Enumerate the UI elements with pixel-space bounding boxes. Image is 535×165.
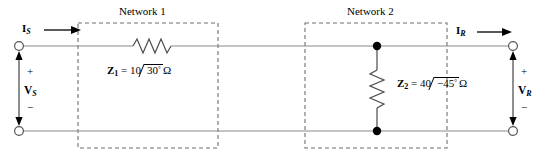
- receiving-voltage-arrowhead-down: [509, 117, 516, 126]
- z2-subscript: 2: [404, 82, 408, 91]
- terminal-receiving-bottom: [509, 127, 518, 136]
- source-voltage-arrowhead-down: [15, 117, 22, 126]
- receiving-voltage-subscript: R: [526, 89, 531, 98]
- z1-angle-symbol: 30°: [141, 65, 163, 76]
- z1-impedance-label: Z1 = 1030°Ω: [107, 65, 171, 78]
- z1-equals: =: [121, 64, 127, 76]
- terminal-source-bottom: [15, 127, 24, 136]
- receiving-voltage-arrowhead-up: [509, 51, 516, 60]
- z2-equals: =: [411, 77, 417, 89]
- receiving-current-label: IR: [456, 25, 466, 38]
- z2-unit: Ω: [459, 77, 467, 89]
- z1-resistor-symbol: [133, 39, 171, 53]
- z1-unit: Ω: [163, 64, 171, 76]
- source-current-arrowhead: [71, 26, 81, 34]
- receiving-current-arrowhead: [502, 28, 512, 36]
- junction-top-dot: [373, 42, 381, 50]
- junction-bottom-dot: [373, 127, 381, 135]
- source-voltage-arrowhead-up: [15, 51, 22, 60]
- z2-degree-sign: °: [454, 78, 457, 86]
- terminal-receiving-top: [509, 42, 518, 51]
- z1-degree-sign: °: [158, 65, 161, 73]
- source-voltage-minus-sign: −: [27, 102, 33, 113]
- terminal-source-top: [15, 42, 24, 51]
- network-2-title: Network 2: [347, 6, 394, 17]
- source-voltage-label: VS: [24, 85, 37, 98]
- source-voltage-plus-sign: +: [27, 66, 33, 77]
- z1-subscript: 1: [114, 69, 118, 78]
- z2-angle-symbol: −45°: [431, 78, 459, 89]
- source-current-label: IS: [22, 23, 31, 36]
- receiving-current-subscript: R: [460, 29, 465, 38]
- circuit-diagram: Network 1 Network 2 IS IR + VS − + VR − …: [0, 0, 535, 165]
- network-1-title: Network 1: [119, 6, 166, 17]
- receiving-voltage-plus-sign: +: [521, 66, 527, 77]
- z2-impedance-label: Z2 = 40−45°Ω: [397, 78, 467, 91]
- z2-resistor-symbol: [370, 70, 384, 108]
- source-voltage-subscript: S: [32, 89, 36, 98]
- source-current-subscript: S: [26, 27, 30, 36]
- receiving-voltage-minus-sign: −: [521, 102, 527, 113]
- receiving-voltage-label: VR: [518, 85, 532, 98]
